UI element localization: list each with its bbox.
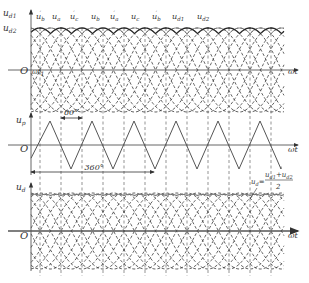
middle-x-label: ωt [288,145,299,154]
bottom-panel-ud: ud O ωt ud= ud1+ud2 2 [8,171,299,271]
curve-label-a: ua [52,12,60,22]
bottom-x-label: ωt [288,231,299,240]
curve-label-c-prime: uc′ [70,9,78,22]
vertical-guide-lines [40,28,271,276]
top-y-label-ud1: ud1 [3,8,16,19]
rectifier-waveform-diagram: ud1 ud2 O ωt1 ωt ub′uauc′ubua′ucub′ud1ud… [0,0,309,283]
formula-numerator: ud1+ud2 [265,171,293,180]
curve-label-d2: ud2 [197,12,210,22]
formula-lhs: ud= [251,178,265,187]
top-origin-label: O [20,65,28,76]
top-panel-ud1-ud2: ud1 ud2 O ωt1 ωt ub′uauc′ubua′ucub′ud1ud… [3,8,299,112]
curve-label-a-prime: ua′ [110,9,118,22]
middle-panel-up: up O ωt 60° 360° [8,108,299,175]
formula-denominator: 2 [275,183,281,191]
curve-label-b: ub [91,12,100,22]
curve-label-b-prime: ub′ [152,9,161,22]
60-degree-label: 60° [64,108,78,117]
bottom-y-label: ud [16,182,26,193]
curve-label-c: uc [131,12,139,22]
curve-label-d1: ud1 [172,12,184,22]
360-degree-label: 360° [85,163,104,172]
top-y-label-ud2: ud2 [3,23,17,34]
curve-label-b-prime: ub′ [36,9,45,22]
top-x-label: ωt [288,67,299,76]
bottom-origin-label: O [20,230,28,241]
formula-leader-line [250,188,257,199]
middle-y-label: up [16,115,26,127]
wt1-label: ωt1 [32,68,44,77]
middle-origin-label: O [20,143,28,154]
curve-labels: ub′uauc′ubua′ucub′ud1ud2 [36,9,210,22]
